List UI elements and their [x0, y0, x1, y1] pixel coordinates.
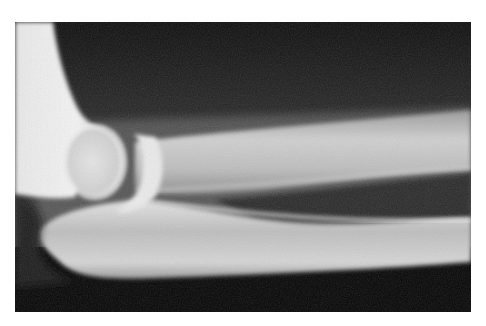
- xray-drawing: [15, 22, 471, 312]
- film-grain: [15, 22, 471, 312]
- xray-image: X-ray of an elbow showing the distal hum…: [15, 22, 471, 312]
